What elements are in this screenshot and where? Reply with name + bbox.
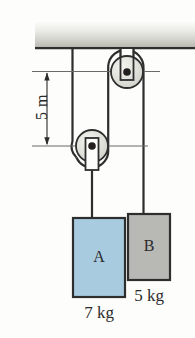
block-b-mass-label: 5 kg <box>114 286 184 306</box>
ceiling-support <box>35 22 195 48</box>
upper-pulley-axle <box>123 68 131 76</box>
lower-pulley <box>76 130 108 218</box>
rope-ceiling-to-lower-pulley <box>72 48 77 158</box>
ceiling-slab <box>35 22 195 48</box>
lower-pulley-axle <box>88 142 96 150</box>
dimension-arrow-down <box>44 137 49 145</box>
pulley-diagram: A B 7 kg 5 kg 5 m <box>0 0 195 338</box>
block-a-letter-label: A <box>73 248 125 266</box>
dimension-arrow-up <box>44 73 49 81</box>
block-b-letter-label: B <box>128 237 170 255</box>
block-a-mass-label: 7 kg <box>64 303 134 323</box>
dimension-label: 5 m <box>33 94 51 120</box>
